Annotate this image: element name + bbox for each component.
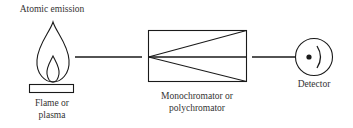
detector-label: Detector [298, 79, 332, 89]
monochromator-label-line1: Monochromator or [161, 91, 234, 101]
source-label-line1: Flame or [35, 98, 70, 108]
atomic-emission-diagram: Atomic emission Flame or plasma Monochro… [0, 0, 353, 128]
monochromator-frame [149, 31, 247, 82]
dispersion-ray-lower [149, 57, 247, 82]
flame-outer [37, 22, 69, 82]
flame-icon [37, 22, 69, 82]
monochromator-box [149, 31, 247, 82]
detector-icon [296, 39, 333, 76]
diagram-title: Atomic emission [20, 4, 85, 14]
source-label-line2: plasma [39, 110, 67, 120]
detector-outline [296, 39, 333, 76]
burner-base [30, 85, 74, 93]
detector-dot [306, 54, 311, 59]
monochromator-label-line2: polychromator [169, 103, 226, 113]
flame-inner [47, 56, 59, 82]
detector-arc [317, 46, 321, 68]
dispersion-ray-upper [149, 31, 247, 58]
